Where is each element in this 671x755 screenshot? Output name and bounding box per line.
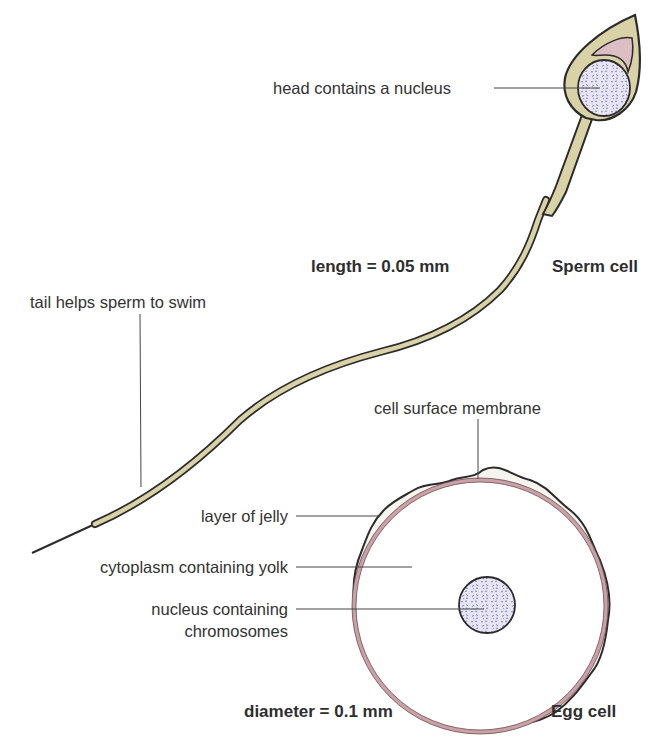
label-tail: tail helps sperm to swim [30, 292, 206, 312]
label-nucleus-line2: chromosomes [184, 621, 288, 641]
sperm-and-egg-diagram: head contains a nucleus length = 0.05 mm… [0, 0, 671, 755]
label-sperm-length: length = 0.05 mm [311, 257, 449, 277]
label-head-contains-nucleus: head contains a nucleus [273, 78, 451, 98]
diagram-artwork [0, 0, 671, 755]
tail-leader-line [140, 314, 141, 487]
sperm-tail-tip [32, 524, 95, 553]
sperm-midpiece [543, 115, 592, 216]
label-sperm-cell-title: Sperm cell [552, 257, 638, 277]
label-cytoplasm: cytoplasm containing yolk [100, 557, 288, 577]
egg-nucleus [459, 577, 515, 633]
label-egg-diameter: diameter = 0.1 mm [244, 702, 393, 722]
label-nucleus-line1: nucleus containing [151, 599, 288, 619]
label-layer-of-jelly: layer of jelly [201, 506, 288, 526]
label-egg-cell-title: Egg cell [551, 702, 616, 722]
egg-cell [296, 419, 610, 734]
label-cell-surface-membrane: cell surface membrane [374, 398, 541, 418]
